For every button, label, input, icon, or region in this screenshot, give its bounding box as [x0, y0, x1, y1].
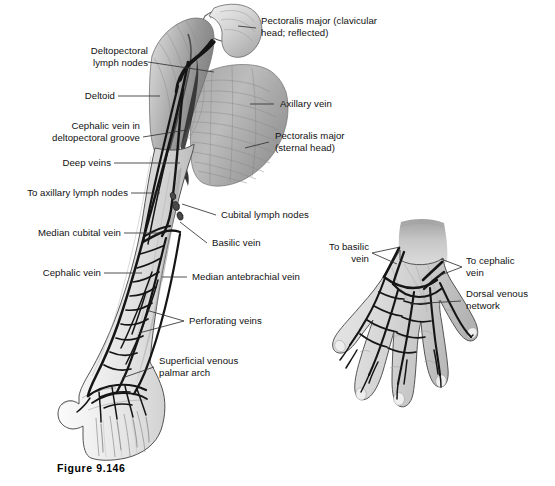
label-cubital-lymph-nodes: Cubital lymph nodes: [221, 209, 351, 221]
leader-basilic-vein: [180, 222, 207, 243]
hand-dorsum-outline: [333, 250, 478, 407]
label-to-cephalic-vein: To cephalic vein: [466, 255, 546, 278]
label-dorsal-venous-network: Dorsal venous network: [466, 288, 552, 311]
label-axillary-vein: Axillary vein: [280, 98, 400, 110]
label-superficial-venous-palmar-arch: Superficial venous palmar arch: [159, 355, 289, 378]
anatomy-figure: Deltopectoral lymph nodes Deltoid Cephal…: [0, 0, 555, 486]
label-to-basilic-vein: To basilic vein: [316, 241, 369, 264]
figure-caption: Figure 9.146: [57, 462, 125, 474]
label-basilic-vein: Basilic vein: [212, 237, 312, 249]
label-cephalic-vein: Cephalic vein: [0, 267, 101, 279]
label-median-antebrachial-vein: Median antebrachial vein: [192, 271, 352, 283]
label-deltoid: Deltoid: [0, 90, 115, 102]
label-deep-veins: Deep veins: [0, 157, 111, 169]
label-median-cubital-vein: Median cubital vein: [0, 227, 121, 239]
label-to-axillary-lymph-nodes: To axillary lymph nodes: [0, 187, 128, 199]
label-perforating-veins: Perforating veins: [189, 315, 309, 327]
pectoralis-major-sternal-head: [191, 65, 289, 187]
label-deltopectoral-lymph-nodes: Deltopectoral lymph nodes: [0, 45, 148, 68]
label-pectoralis-major-clavicular-head: Pectoralis major (clavicular head; refle…: [261, 15, 441, 38]
label-cephalic-vein-in-deltopectoral-groove: Cephalic vein in deltopectoral groove: [0, 120, 140, 143]
label-pectoralis-major-sternal-head: Pectoralis major (sternal head): [275, 130, 415, 153]
leader-cubital-lymph-nodes: [182, 204, 216, 215]
